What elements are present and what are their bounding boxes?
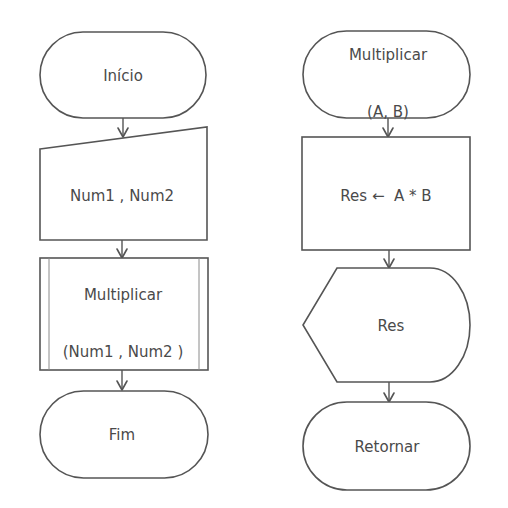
display-label: Res <box>378 317 405 336</box>
retornar-label: Retornar <box>355 438 420 457</box>
sub-start-label-line2: (A, B) <box>349 103 427 122</box>
call-label: Multiplicar (Num1 , Num2 ) <box>63 248 184 381</box>
call-label-line2: (Num1 , Num2 ) <box>63 343 184 362</box>
sub-start-label: Multiplicar (A, B) <box>349 8 427 141</box>
inicio-label: Início <box>103 67 143 86</box>
call-label-line1: Multiplicar <box>63 286 184 305</box>
assign-label: Res ← A * B <box>340 187 431 206</box>
input-manual-shape <box>40 127 207 240</box>
fim-label: Fim <box>109 426 135 445</box>
sub-start-label-line1: Multiplicar <box>349 46 427 65</box>
input-label: Num1 , Num2 <box>70 187 174 206</box>
